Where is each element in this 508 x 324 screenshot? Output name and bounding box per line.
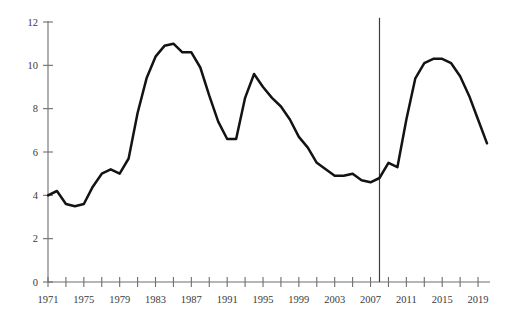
line-chart: 024681012 197119751979198319871991199519… <box>0 0 508 324</box>
x-tick-label: 1991 <box>217 294 238 305</box>
y-tick-label: 6 <box>33 147 38 158</box>
chart-page: 024681012 197119751979198319871991199519… <box>0 0 508 324</box>
x-tick-label: 2011 <box>396 294 417 305</box>
x-axis: 1971197519791983198719911995199920032007… <box>38 277 491 305</box>
series-layer <box>48 44 487 207</box>
x-tick-label: 1983 <box>145 294 166 305</box>
x-tick-label: 1971 <box>38 294 59 305</box>
x-tick-label: 1999 <box>288 294 309 305</box>
y-tick-label: 0 <box>33 277 38 288</box>
x-tick-label: 1979 <box>109 294 130 305</box>
x-tick-label: 1995 <box>253 294 274 305</box>
y-tick-label: 8 <box>33 103 38 114</box>
y-axis: 024681012 <box>28 17 54 288</box>
x-tick-label: 2003 <box>324 294 345 305</box>
y-tick-label: 10 <box>28 60 39 71</box>
x-tick-label: 2015 <box>432 294 453 305</box>
series-unemployment-rate <box>48 44 487 207</box>
y-tick-label: 4 <box>33 190 39 201</box>
y-tick-label: 12 <box>28 17 39 28</box>
x-tick-label: 2007 <box>360 294 381 305</box>
y-tick-label: 2 <box>33 233 38 244</box>
x-tick-label: 1975 <box>73 294 94 305</box>
x-tick-label: 2019 <box>468 294 489 305</box>
x-tick-label: 1987 <box>181 294 202 305</box>
